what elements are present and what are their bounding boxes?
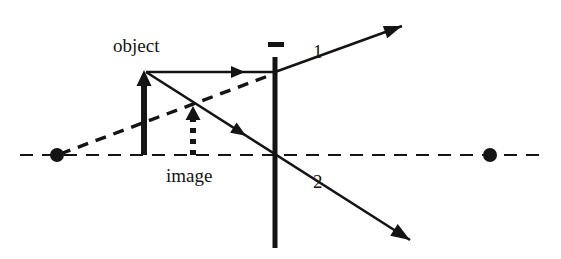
ray-2-arrowhead-icon bbox=[390, 224, 410, 240]
image-label: image bbox=[166, 166, 212, 185]
ray-diagram-figure: object image 1 2 bbox=[0, 0, 561, 259]
incident-ray-arrowhead-icon bbox=[231, 66, 245, 78]
ray-1-arrowhead-icon bbox=[383, 26, 402, 38]
ray-diagram-canvas bbox=[0, 0, 561, 259]
object-label: object bbox=[113, 36, 159, 55]
lens-minus-sign-icon bbox=[268, 42, 284, 47]
ray-2-label: 2 bbox=[313, 172, 323, 191]
refracted-ray-1 bbox=[275, 26, 402, 72]
ray-1-label: 1 bbox=[313, 42, 323, 61]
image-arrowhead-icon bbox=[186, 106, 201, 120]
focal-point-left bbox=[50, 148, 64, 162]
chief-ray-mid-arrowhead-icon bbox=[230, 123, 246, 136]
focal-point-right bbox=[483, 148, 497, 162]
